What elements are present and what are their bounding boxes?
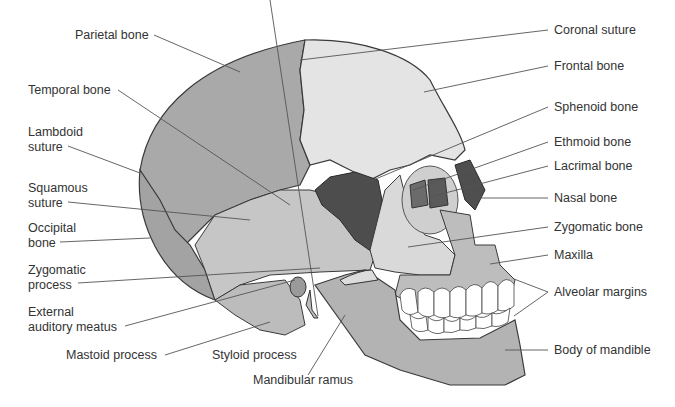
label-mastoid-process: Mastoid process bbox=[66, 348, 157, 363]
label-line2: auditory meatus bbox=[28, 320, 117, 334]
label-external-auditory-meatus: Externalauditory meatus bbox=[28, 305, 117, 335]
label-sphenoid-bone: Sphenoid bone bbox=[554, 100, 638, 115]
label-alveolar-margins: Alveolar margins bbox=[554, 285, 647, 300]
label-maxilla: Maxilla bbox=[554, 248, 593, 263]
label-parietal-bone: Parietal bone bbox=[75, 28, 149, 43]
label-line1: Zygomatic bbox=[28, 263, 86, 277]
label-ethmoid-bone: Ethmoid bone bbox=[554, 135, 631, 150]
label-frontal-bone: Frontal bone bbox=[554, 59, 624, 74]
frontal-bone bbox=[300, 40, 465, 180]
label-line2: suture bbox=[28, 140, 63, 154]
label-nasal-bone: Nasal bone bbox=[554, 191, 617, 206]
label-temporal-bone: Temporal bone bbox=[28, 83, 111, 98]
nasal-bone bbox=[455, 160, 485, 210]
label-line1: Lambdoid bbox=[28, 125, 83, 139]
label-body-of-mandible: Body of mandible bbox=[554, 343, 651, 358]
label-line2: bone bbox=[28, 236, 56, 250]
label-line1: External bbox=[28, 305, 74, 319]
ethmoid-bone bbox=[410, 180, 428, 208]
label-lambdoid-suture: Lambdoidsuture bbox=[28, 125, 83, 155]
label-mandibular-ramus: Mandibular ramus bbox=[253, 373, 353, 388]
label-line1: Occipital bbox=[28, 221, 76, 235]
label-line2: process bbox=[28, 278, 72, 292]
label-zygomatic-process: Zygomaticprocess bbox=[28, 263, 86, 293]
label-lacrimal-bone: Lacrimal bone bbox=[554, 159, 633, 174]
external-auditory-meatus bbox=[290, 277, 306, 297]
label-zygomatic-bone: Zygomatic bone bbox=[554, 220, 643, 235]
label-coronal-suture: Coronal suture bbox=[554, 23, 636, 38]
label-line1: Squamous bbox=[28, 181, 88, 195]
label-occipital-bone: Occipitalbone bbox=[28, 221, 76, 251]
label-styloid-process: Styloid process bbox=[212, 348, 297, 363]
label-squamous-suture: Squamoussuture bbox=[28, 181, 88, 211]
label-line2: suture bbox=[28, 196, 63, 210]
